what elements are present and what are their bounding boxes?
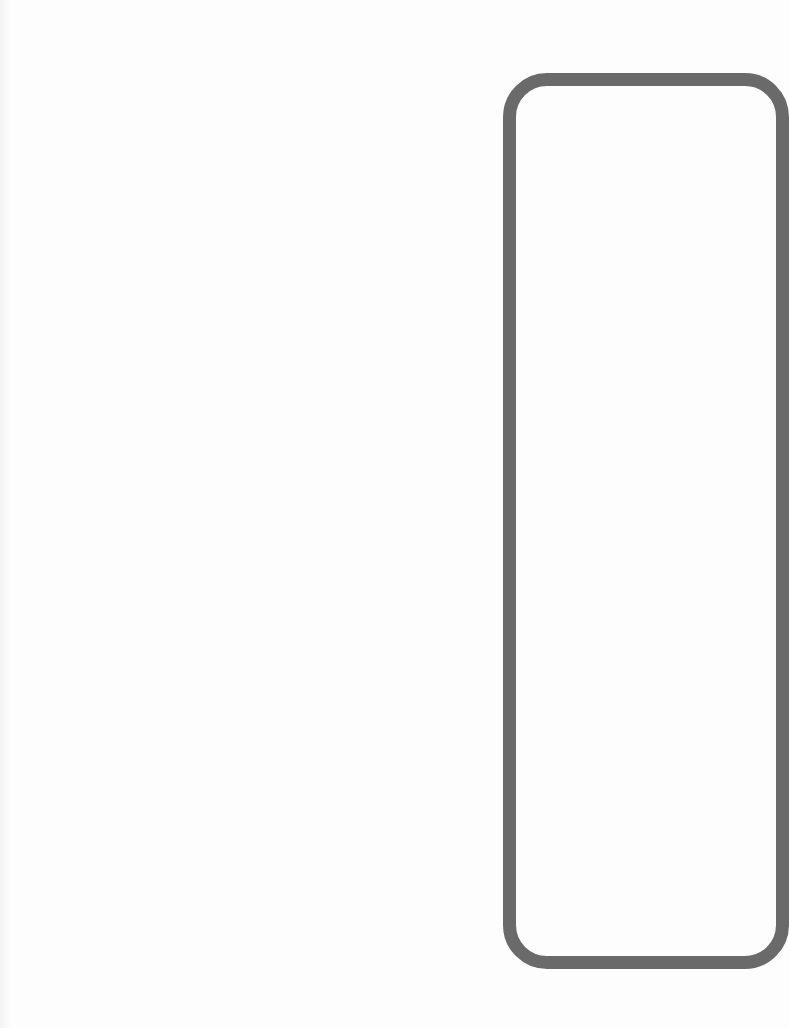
rounded-rectangle-frame (503, 73, 789, 969)
page-edge-shadow (0, 0, 10, 1028)
